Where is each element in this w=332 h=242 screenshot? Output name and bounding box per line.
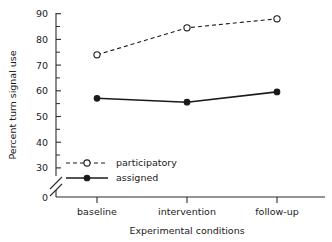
x-axis-ticks: [97, 197, 277, 203]
data-point-participatory-follow-up: [274, 16, 280, 22]
x-tick-label-baseline: baseline: [77, 206, 117, 217]
data-point-assigned-intervention: [184, 99, 190, 105]
legend-item-assigned: assigned: [66, 172, 158, 183]
y-axis-ticks: 90 80 70 60 50 40 30 0: [36, 8, 61, 202]
legend-item-participatory: participatory: [66, 157, 177, 168]
y-tick-label-90: 90: [36, 8, 48, 19]
y-tick-label-0: 0: [42, 192, 48, 203]
y-axis-title: Percent turn signal use: [7, 50, 18, 159]
chart-legend: participatory assigned: [66, 157, 177, 183]
y-tick-label-80: 80: [36, 34, 48, 45]
x-axis-title: Experimental conditions: [129, 225, 244, 236]
data-point-participatory-baseline: [94, 52, 100, 58]
axis-break-icon: [50, 177, 62, 189]
x-tick-label-intervention: intervention: [158, 206, 216, 217]
y-tick-label-40: 40: [36, 137, 48, 148]
x-tick-label-follow-up: follow-up: [255, 206, 299, 217]
y-tick-label-60: 60: [36, 85, 48, 96]
data-point-participatory-intervention: [184, 25, 190, 31]
data-point-assigned-follow-up: [274, 89, 280, 95]
y-tick-label-50: 50: [36, 111, 48, 122]
legend-marker-filled-circle-icon: [84, 175, 90, 181]
legend-label-assigned: assigned: [116, 172, 158, 183]
line-chart-plot: Percent turn signal use 90 80 70 60 50 4…: [0, 0, 332, 242]
chart-figure: Percent turn signal use 90 80 70 60 50 4…: [0, 0, 332, 242]
legend-marker-open-circle-icon: [84, 160, 90, 166]
data-point-assigned-baseline: [94, 96, 100, 102]
legend-label-participatory: participatory: [116, 157, 177, 168]
y-tick-label-30: 30: [36, 162, 48, 173]
y-tick-label-70: 70: [36, 60, 48, 71]
